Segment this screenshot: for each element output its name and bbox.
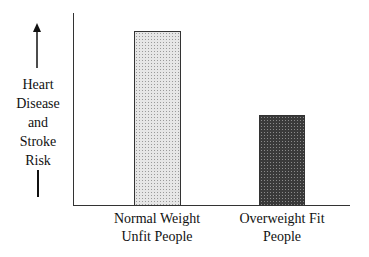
y-axis-label-line: Risk	[4, 151, 72, 170]
arrow-up-icon	[32, 23, 42, 69]
x-tick-label-line: Normal Weight	[92, 210, 222, 228]
bar-overweight-fit	[259, 115, 305, 206]
y-axis-label-line: Stroke	[4, 132, 72, 151]
x-tick-label-line: Overweight Fit	[217, 210, 347, 228]
y-axis-arrow	[36, 23, 38, 67]
x-axis	[73, 205, 350, 206]
y-axis-label-line: Heart	[4, 75, 72, 94]
y-axis-label-line-bottom	[37, 170, 39, 197]
x-tick-label-line: People	[217, 228, 347, 246]
y-axis-label-line: Disease	[4, 94, 72, 113]
x-tick-label-normal-weight-unfit: Normal Weight Unfit People	[92, 210, 222, 246]
y-axis-label: Heart Disease and Stroke Risk	[4, 75, 72, 170]
bar-normal-weight-unfit	[134, 31, 181, 206]
y-axis-label-line: and	[4, 113, 72, 132]
x-tick-label-line: Unfit People	[92, 228, 222, 246]
x-tick-label-overweight-fit: Overweight Fit People	[217, 210, 347, 246]
y-axis	[73, 13, 74, 206]
